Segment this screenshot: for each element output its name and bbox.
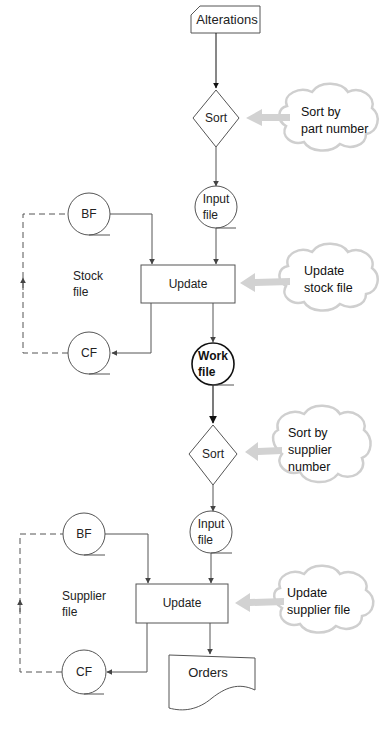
annotation-sort-part-line1: Sort by <box>301 104 368 121</box>
stock-file-line1: Stock <box>73 268 103 284</box>
supplier-file-line1: Supplier <box>62 588 106 604</box>
annotation-sort-supplier: Sort by supplier number <box>288 425 332 476</box>
annotation-sort-supplier-line2: supplier <box>288 442 332 459</box>
input-file-1-label: Input file <box>203 191 230 223</box>
alterations-label: Alterations <box>196 12 257 28</box>
annotation-update-supplier: Update supplier file <box>287 585 350 619</box>
annotation-update-stock-line1: Update <box>304 263 353 280</box>
bf2-label: BF <box>76 526 91 542</box>
supplier-file-line2: file <box>62 604 106 620</box>
input-file-1-line2: file <box>203 207 230 223</box>
update2-label: Update <box>163 595 202 611</box>
bf1-label: BF <box>81 206 96 222</box>
annotation-update-stock-line2: stock file <box>304 280 353 297</box>
stock-file-cycle-dashed <box>23 214 68 353</box>
annotation-sort-part: Sort by part number <box>301 104 368 138</box>
stock-file-label: Stock file <box>73 268 103 300</box>
input-file-2-label: Input file <box>198 516 225 548</box>
orders-label: Orders <box>188 665 228 681</box>
orders-document-shape <box>169 655 255 710</box>
work-file-label: Work file <box>198 348 228 380</box>
annotation-sort-supplier-line3: number <box>288 459 332 476</box>
cf2-label: CF <box>76 664 92 680</box>
input-file-2-line2: file <box>198 532 225 548</box>
annotation-update-supplier-line2: supplier file <box>287 602 350 619</box>
annotation-sort-supplier-line1: Sort by <box>288 425 332 442</box>
work-file-line1: Work <box>198 348 228 364</box>
stock-file-line2: file <box>73 284 103 300</box>
cf1-label: CF <box>81 345 97 361</box>
sort1-label: Sort <box>205 110 227 126</box>
supplier-file-cycle-dashed <box>20 534 63 672</box>
supplier-file-label: Supplier file <box>62 588 106 620</box>
update1-label: Update <box>169 276 208 292</box>
work-file-line2: file <box>198 364 228 380</box>
annotation-sort-part-line2: part number <box>301 121 368 138</box>
input-file-1-line1: Input <box>203 191 230 207</box>
input-file-2-line1: Input <box>198 516 225 532</box>
annotation-update-stock: Update stock file <box>304 263 353 297</box>
annotation-update-supplier-line1: Update <box>287 585 350 602</box>
sort2-label: Sort <box>202 446 224 462</box>
